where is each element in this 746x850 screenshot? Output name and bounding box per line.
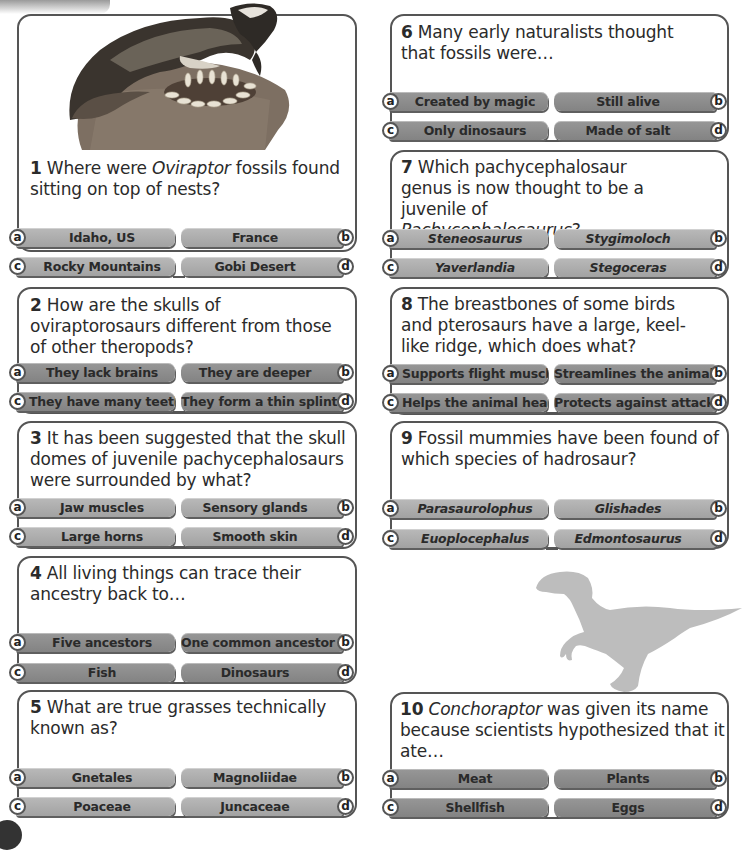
- answer-option-3-d[interactable]: Smooth skin: [181, 527, 343, 546]
- theropod-silhouette: [530, 568, 746, 693]
- answer-option-7-d[interactable]: Stegoceras: [554, 258, 716, 277]
- answer-option-4-a[interactable]: Five ancestors: [15, 633, 175, 652]
- option-letter-badge-d: d: [710, 394, 727, 411]
- option-letter-badge-d: d: [710, 530, 727, 547]
- answer-option-2-c[interactable]: They have many teeth: [15, 392, 175, 411]
- answer-option-5-d[interactable]: Juncaceae: [181, 797, 343, 816]
- question-text-4: 4 All living things can trace their ance…: [30, 563, 350, 605]
- answer-option-2-b[interactable]: They are deeper: [181, 363, 343, 382]
- answer-option-9-a[interactable]: Parasaurolophus: [388, 499, 548, 518]
- answer-option-4-b[interactable]: One common ancestor: [181, 633, 343, 652]
- option-letter-badge-a: a: [382, 230, 399, 247]
- option-connector-line: [546, 140, 558, 142]
- answer-option-8-b[interactable]: Streamlines the animal: [554, 364, 716, 383]
- answer-option-4-d[interactable]: Dinosaurs: [181, 663, 343, 682]
- option-letter-badge-a: a: [9, 499, 26, 516]
- option-letter-badge-a: a: [9, 634, 26, 651]
- option-connector-line: [546, 817, 558, 819]
- question-text-9: 9 Fossil mummies have been found of whic…: [401, 428, 726, 470]
- answer-option-3-c[interactable]: Large horns: [15, 527, 175, 546]
- option-letter-badge-b: b: [337, 769, 354, 786]
- answer-option-7-b[interactable]: Stygimoloch: [554, 229, 716, 248]
- question-text-5: 5 What are true grasses technically know…: [30, 697, 350, 739]
- option-letter-badge-d: d: [710, 122, 727, 139]
- answer-option-2-d[interactable]: They form a thin splint: [181, 392, 343, 411]
- option-letter-badge-d: d: [337, 664, 354, 681]
- answer-option-9-c[interactable]: Euoplocephalus: [388, 529, 548, 548]
- option-letter-badge-b: b: [710, 93, 727, 110]
- option-letter-badge-b: b: [710, 365, 727, 382]
- answer-option-5-a[interactable]: Gnetales: [15, 768, 175, 787]
- answer-option-8-c[interactable]: Helps the animal hear: [388, 393, 548, 412]
- option-letter-badge-c: c: [382, 259, 399, 276]
- answer-option-9-b[interactable]: Glishades: [554, 499, 716, 518]
- option-letter-badge-b: b: [337, 229, 354, 246]
- option-connector-line: [173, 276, 185, 278]
- option-connector-line: [546, 412, 558, 414]
- answer-option-1-a[interactable]: Idaho, US: [15, 228, 175, 247]
- option-letter-badge-a: a: [382, 365, 399, 382]
- option-letter-badge-a: a: [382, 770, 399, 787]
- answer-option-8-d[interactable]: Protects against attack: [554, 393, 716, 412]
- answer-option-3-b[interactable]: Sensory glands: [181, 498, 343, 517]
- answer-option-1-c[interactable]: Rocky Mountains: [15, 257, 175, 276]
- answer-option-6-a[interactable]: Created by magic: [388, 92, 548, 111]
- answer-option-9-d[interactable]: Edmontosaurus: [554, 529, 716, 548]
- question-text-2: 2 How are the skulls of oviraptorosaurs …: [30, 295, 350, 358]
- answer-option-1-b[interactable]: France: [181, 228, 343, 247]
- answer-option-6-c[interactable]: Only dinosaurs: [388, 121, 548, 140]
- option-letter-badge-a: a: [382, 93, 399, 110]
- option-letter-badge-a: a: [9, 229, 26, 246]
- option-letter-badge-c: c: [9, 528, 26, 545]
- option-letter-badge-c: c: [9, 258, 26, 275]
- option-connector-line: [173, 546, 185, 548]
- option-letter-badge-b: b: [337, 634, 354, 651]
- answer-option-10-a[interactable]: Meat: [388, 769, 548, 788]
- option-letter-badge-b: b: [710, 770, 727, 787]
- question-text-10: 10 Conchoraptor was given its name becau…: [400, 699, 730, 762]
- option-connector-line: [546, 277, 558, 279]
- option-letter-badge-c: c: [9, 798, 26, 815]
- answer-option-7-c[interactable]: Yaverlandia: [388, 258, 548, 277]
- option-letter-badge-c: c: [382, 799, 399, 816]
- question-text-8: 8 The breastbones of some birds and pter…: [401, 294, 701, 357]
- answer-option-6-d[interactable]: Made of salt: [554, 121, 716, 140]
- option-letter-badge-b: b: [710, 230, 727, 247]
- option-connector-line: [173, 682, 185, 684]
- option-letter-badge-c: c: [382, 394, 399, 411]
- answer-option-5-b[interactable]: Magnoliidae: [181, 768, 343, 787]
- option-letter-badge-d: d: [337, 393, 354, 410]
- answer-option-2-a[interactable]: They lack brains: [15, 363, 175, 382]
- option-letter-badge-a: a: [382, 500, 399, 517]
- oviraptor-nest-illustration: [60, 0, 300, 152]
- option-connector-line: [173, 816, 185, 818]
- option-connector-line: [173, 411, 185, 413]
- answer-option-6-b[interactable]: Still alive: [554, 92, 716, 111]
- answer-option-10-c[interactable]: Shellfish: [388, 798, 548, 817]
- option-letter-badge-d: d: [710, 259, 727, 276]
- option-letter-badge-c: c: [9, 393, 26, 410]
- option-letter-badge-c: c: [382, 122, 399, 139]
- option-letter-badge-c: c: [9, 664, 26, 681]
- question-text-6: 6 Many early naturalists thought that fo…: [401, 22, 681, 64]
- option-letter-badge-a: a: [9, 364, 26, 381]
- option-letter-badge-b: b: [337, 364, 354, 381]
- question-text-3: 3 It has been suggested that the skull d…: [30, 428, 350, 491]
- option-letter-badge-b: b: [710, 500, 727, 517]
- option-connector-line: [546, 548, 558, 550]
- page-number-dot: [0, 820, 22, 850]
- answer-option-1-d[interactable]: Gobi Desert: [181, 257, 343, 276]
- answer-option-10-b[interactable]: Plants: [554, 769, 716, 788]
- answer-option-5-c[interactable]: Poaceae: [15, 797, 175, 816]
- option-letter-badge-a: a: [9, 769, 26, 786]
- option-letter-badge-d: d: [337, 258, 354, 275]
- option-letter-badge-d: d: [337, 528, 354, 545]
- answer-option-8-a[interactable]: Supports flight muscles: [388, 364, 548, 383]
- question-text-1: 1 Where were Oviraptor fossils found sit…: [30, 158, 350, 200]
- answer-option-3-a[interactable]: Jaw muscles: [15, 498, 175, 517]
- answer-option-7-a[interactable]: Steneosaurus: [388, 229, 548, 248]
- answer-option-4-c[interactable]: Fish: [15, 663, 175, 682]
- option-letter-badge-d: d: [337, 798, 354, 815]
- answer-option-10-d[interactable]: Eggs: [554, 798, 716, 817]
- option-letter-badge-c: c: [382, 530, 399, 547]
